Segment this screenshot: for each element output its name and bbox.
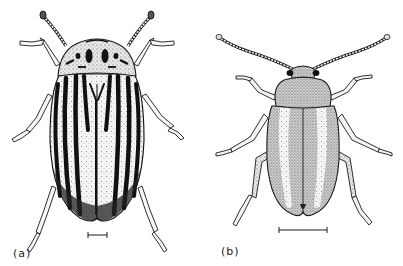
beetle-b bbox=[216, 34, 392, 233]
panel-label-a: (a) bbox=[13, 247, 31, 260]
beetle-b-scale-bar bbox=[279, 227, 327, 233]
beetle-a bbox=[12, 11, 184, 252]
beetle-b-antennae bbox=[216, 34, 390, 70]
panel-label-b: (b) bbox=[221, 245, 240, 258]
beetle-a-elytra bbox=[50, 74, 144, 221]
beetle-b-elytra bbox=[267, 106, 339, 216]
beetle-a-scale-bar bbox=[88, 232, 107, 238]
illustration-canvas bbox=[0, 0, 403, 266]
beetle-b-pronotum bbox=[275, 66, 331, 108]
beetle-a-pronotum bbox=[58, 39, 136, 76]
beetle-figure: (a) (b) bbox=[0, 0, 403, 266]
